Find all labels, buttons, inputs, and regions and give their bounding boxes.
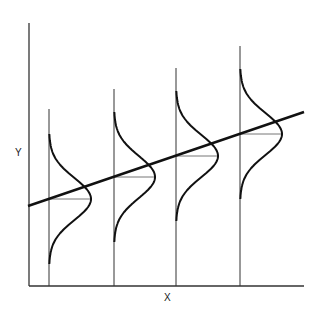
regression-line [28,112,304,206]
diagram-canvas [0,0,323,315]
